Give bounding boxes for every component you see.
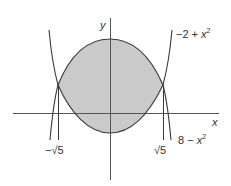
upper-curve-exp: 2 (202, 133, 206, 140)
y-axis-label: y (100, 20, 106, 31)
upper-curve-label: 8 − x2 (178, 133, 206, 146)
x-axis-label: x (212, 117, 218, 128)
lower-curve-expr: −2 + (176, 28, 201, 40)
lower-curve-exp: 2 (207, 27, 211, 34)
right-intersection-label: √5 (154, 145, 166, 156)
lower-curve-label: −2 + x2 (176, 27, 210, 40)
left-intersection-label: −√5 (45, 145, 64, 156)
upper-curve-expr: 8 − (178, 134, 197, 146)
region-between-curves-figure: y x −2 + x2 8 − x2 −√5 √5 (0, 0, 231, 186)
